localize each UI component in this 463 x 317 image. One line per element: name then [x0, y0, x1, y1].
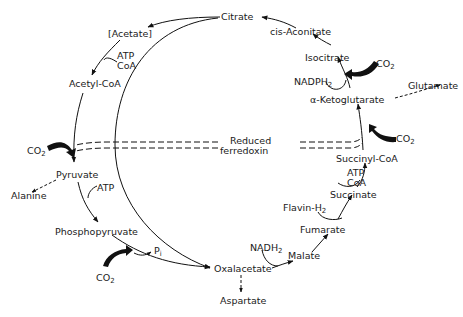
arrow-pyruvate-phosphopyruvate	[78, 182, 98, 222]
metabolite-alpha-ketoglutarate: α-Ketoglutarate	[310, 95, 384, 105]
co2-label-isocitrate: CO2	[376, 59, 395, 71]
arrow-succinylcoa-aketoglutarate	[358, 104, 363, 150]
cofactor-coa-label: CoA	[347, 177, 366, 188]
metabolite-acetyl-coa: Acetyl-CoA	[69, 79, 121, 89]
metabolite-acetate: [Acetate]	[108, 29, 152, 39]
cofactor-atp-left: ATP	[97, 183, 114, 193]
co2-text: CO	[376, 58, 390, 69]
metabolite-oxalacetate: Oxalacetate	[214, 264, 272, 274]
reduced-ferredoxin-label: Reduced ferredoxin	[220, 136, 271, 155]
co2-text: CO	[96, 272, 110, 283]
metabolite-alanine: Alanine	[11, 191, 47, 201]
arrow-acetate-acetylcoa	[92, 40, 120, 75]
pathway-diagram: Citrate cis-Aconitate Isocitrate α-Ketog…	[0, 0, 463, 317]
co2-subscript: 2	[410, 138, 414, 146]
nadh-subscript: 2	[278, 247, 282, 255]
nadph-text: NADPH	[294, 76, 328, 87]
cofactor-pi: Pi	[154, 246, 162, 258]
metabolite-fumarate: Fumarate	[300, 225, 345, 235]
metabolite-isocitrate: Isocitrate	[305, 53, 349, 63]
cofactor-atp-coa-right: ATP CoA	[347, 168, 366, 187]
co2-label-succinyl: CO2	[396, 134, 415, 146]
co2-subscript: 2	[41, 150, 45, 158]
metabolite-pyruvate: Pyruvate	[56, 170, 98, 180]
ferredoxin-text: ferredoxin	[220, 145, 268, 156]
arrow-citrate-acetate	[148, 17, 220, 27]
metabolite-phosphopyruvate: Phosphopyruvate	[55, 227, 138, 237]
flavin-subscript: 2	[322, 207, 326, 215]
co2-text: CO	[27, 145, 41, 156]
co2-subscript: 2	[110, 277, 114, 285]
metabolite-citrate: Citrate	[221, 12, 253, 22]
metabolite-aspartate: Aspartate	[220, 296, 266, 306]
nadph-subscript: 2	[328, 81, 332, 89]
co2-label-pyruvate: CO2	[27, 146, 46, 158]
flavin-text: Flavin-H	[283, 202, 322, 213]
arrow-oxalacetate-malate	[272, 261, 293, 268]
co2-subscript: 2	[390, 63, 394, 71]
cofactor-atp-coa-top: ATP CoA	[117, 51, 136, 70]
metabolite-malate: Malate	[288, 251, 320, 261]
metabolite-succinate: Succinate	[330, 190, 377, 200]
metabolite-cis-aconitate: cis-Aconitate	[270, 27, 331, 37]
nadh-text: NADH	[250, 242, 278, 253]
reduced-ferredoxin-lines	[76, 137, 362, 151]
co2-label-oxalacetate: CO2	[96, 273, 115, 285]
cofactor-flavin-h2: Flavin-H2	[283, 203, 326, 215]
cofactor-nadph2: NADPH2	[294, 77, 332, 89]
cofactor-coa-label: CoA	[117, 60, 136, 71]
metabolite-succinyl-coa: Succinyl-CoA	[336, 154, 398, 164]
metabolite-glutamate: Glutamate	[408, 81, 458, 91]
pi-subscript: i	[160, 250, 162, 258]
co2-text: CO	[396, 133, 410, 144]
cofactor-nadh2: NADH2	[250, 243, 283, 255]
